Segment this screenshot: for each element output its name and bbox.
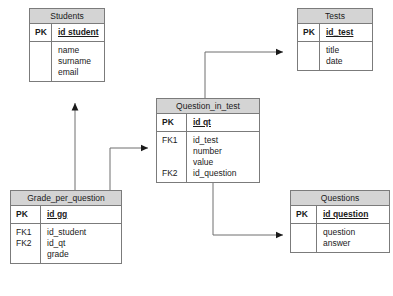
entity-tests-pk-row: PK id_test (298, 24, 372, 42)
entity-students-attributes: name surname email (30, 42, 104, 81)
entity-grade-per-question-attr-list: id_student id_qt grade (41, 224, 121, 263)
entity-questions[interactable]: Questions PK id question question answer (290, 190, 390, 253)
entity-question-in-test-pk-label: PK (157, 114, 187, 131)
entity-grade-per-question-fk-labels: FK1 FK2 (11, 224, 41, 263)
entity-tests-attributes: title date (298, 42, 372, 70)
entity-students-title: Students (30, 9, 104, 24)
attribute-item: id_student (47, 227, 121, 238)
entity-tests-attr-keycol (298, 42, 320, 70)
entity-students-attr-keycol (30, 42, 52, 81)
attribute-item: id_test (193, 135, 259, 146)
fk-label-item: FK1 (162, 135, 186, 146)
entity-question-in-test-pk-field: id qt (187, 114, 259, 131)
attribute-item: value (193, 157, 259, 168)
entity-students-attr-list: name surname email (52, 42, 104, 81)
entity-grade-per-question-pk-label: PK (11, 206, 41, 223)
connector-question-in-test-to-questions (213, 183, 283, 235)
entity-questions-title: Questions (291, 191, 389, 206)
entity-tests-pk-label: PK (298, 24, 320, 41)
entity-tests[interactable]: Tests PK id_test title date (297, 8, 373, 71)
entity-grade-per-question-attributes: FK1 FK2 id_student id_qt grade (11, 224, 121, 263)
entity-tests-pk-field: id_test (320, 24, 372, 41)
entity-question-in-test-attributes: FK1 FK2 id_test number value id_question (157, 132, 259, 182)
entity-tests-attr-list: title date (320, 42, 372, 70)
entity-question-in-test-fk-labels: FK1 FK2 (157, 132, 187, 182)
attribute-item: title (326, 45, 372, 56)
entity-question-in-test-attr-list: id_test number value id_question (187, 132, 259, 182)
attribute-item: number (193, 146, 259, 157)
entity-grade-per-question-title: Grade_per_question (11, 191, 121, 206)
entity-questions-pk-field: id question (317, 206, 389, 223)
entity-questions-pk-row: PK id question (291, 206, 389, 224)
attribute-item: grade (47, 249, 121, 260)
entity-question-in-test-title: Question_in_test (157, 99, 259, 114)
attribute-item: surname (58, 56, 104, 67)
er-diagram-canvas: Students PK id student name surname emai… (0, 0, 393, 296)
attribute-item: id_qt (47, 238, 121, 249)
entity-questions-attr-keycol (291, 224, 317, 252)
attribute-item: question (323, 227, 389, 238)
attribute-item: email (58, 67, 104, 78)
entity-question-in-test[interactable]: Question_in_test PK id qt FK1 FK2 id_tes… (156, 98, 260, 183)
entity-students-pk-row: PK id student (30, 24, 104, 42)
entity-students-pk-label: PK (30, 24, 52, 41)
connector-grade-to-question-in-test (110, 148, 148, 190)
attribute-item: name (58, 45, 104, 56)
entity-questions-attr-list: question answer (317, 224, 389, 252)
entity-grade-per-question-pk-field: id gg (41, 206, 121, 223)
attribute-item: answer (323, 238, 389, 249)
fk-label-item: FK2 (162, 168, 186, 179)
entity-tests-title: Tests (298, 9, 372, 24)
entity-grade-per-question-pk-row: PK id gg (11, 206, 121, 224)
fk-label-item: FK2 (16, 238, 40, 249)
entity-students-pk-field: id student (52, 24, 104, 41)
attribute-item: id_question (193, 168, 259, 179)
connector-question-in-test-to-tests (205, 52, 283, 98)
entity-questions-pk-label: PK (291, 206, 317, 223)
entity-students[interactable]: Students PK id student name surname emai… (29, 8, 105, 82)
attribute-item: date (326, 56, 372, 67)
fk-label-item: FK1 (16, 227, 40, 238)
entity-question-in-test-pk-row: PK id qt (157, 114, 259, 132)
entity-grade-per-question[interactable]: Grade_per_question PK id gg FK1 FK2 id_s… (10, 190, 122, 264)
entity-questions-attributes: question answer (291, 224, 389, 252)
